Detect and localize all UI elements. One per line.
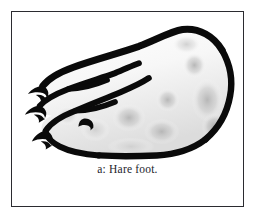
figure-container: a: Hare foot. bbox=[0, 0, 257, 222]
claw-middle bbox=[25, 106, 46, 123]
illustration-area bbox=[12, 12, 243, 162]
hare-foot-drawing bbox=[12, 12, 243, 162]
figure-caption: a: Hare foot. bbox=[12, 162, 243, 176]
figure-frame-border: a: Hare foot. bbox=[11, 11, 244, 207]
claw-lower bbox=[32, 131, 53, 150]
